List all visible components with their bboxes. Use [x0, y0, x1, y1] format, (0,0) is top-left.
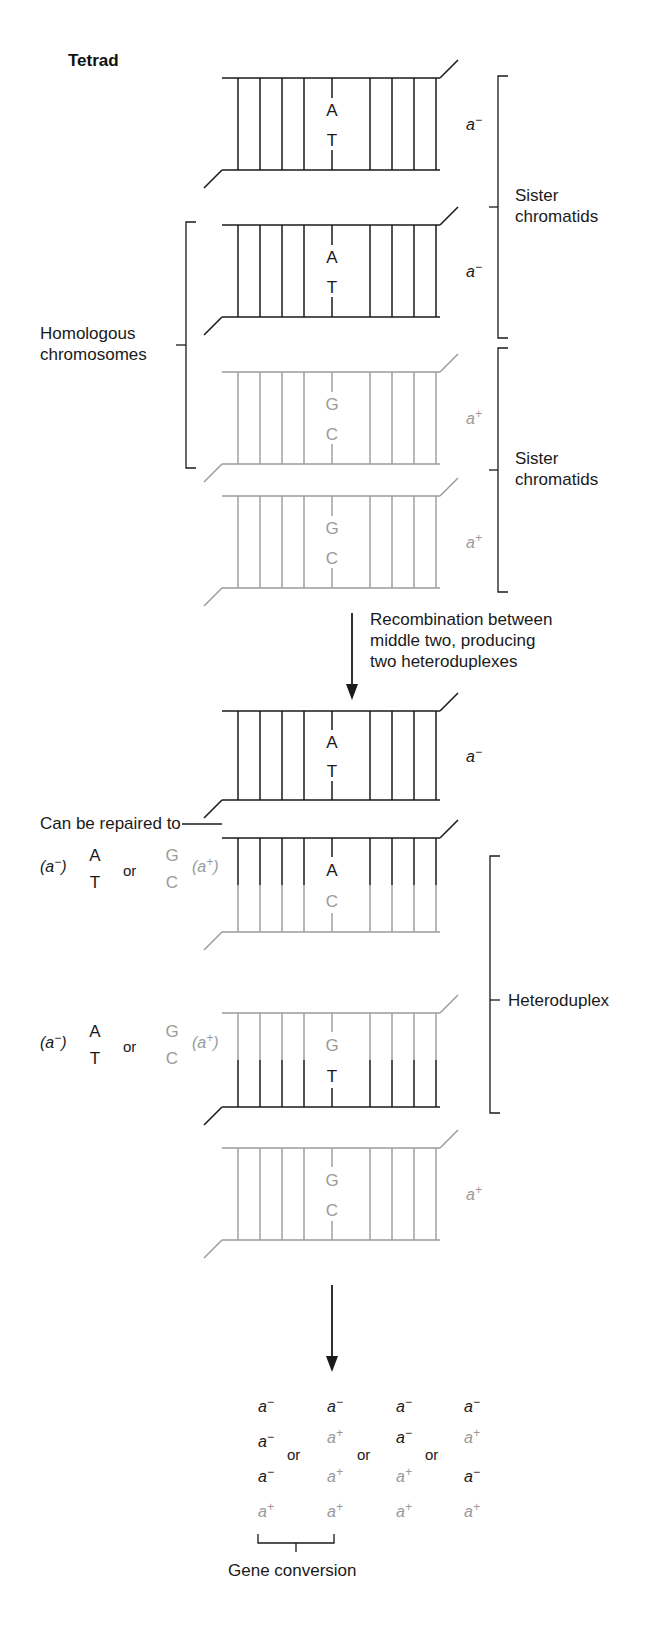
repair-option-row-1: (a−) A T or G C (a+): [40, 846, 219, 892]
gc-cell: a−: [464, 1465, 480, 1485]
repair-right-top-base: G: [165, 1022, 178, 1041]
page-title: Tetrad: [68, 51, 119, 70]
repair-left-bottom-base: T: [90, 873, 100, 892]
base-top: G: [325, 1036, 338, 1055]
label-homologous-line1: Homologous: [40, 324, 135, 343]
label-recombination-line1: Recombination between: [370, 610, 552, 629]
gc-cell: a+: [327, 1465, 343, 1485]
gene-conversion-column-1: a− a− a− a+: [258, 1395, 274, 1520]
duplex-tetrad-2: A T a−: [204, 207, 482, 335]
base-bottom: T: [327, 131, 337, 150]
base-top: A: [326, 248, 338, 267]
repair-right-allele: (a+): [192, 855, 219, 875]
gc-cell: a−: [464, 1395, 480, 1415]
duplex-tetrad-3: G C a+: [204, 354, 482, 482]
base-bottom: C: [326, 549, 338, 568]
allele-label: a+: [466, 531, 482, 551]
label-heteroduplex: Heteroduplex: [508, 991, 610, 1010]
bracket-homologous-chromosomes: [176, 222, 196, 468]
base-bottom: T: [327, 278, 337, 297]
repair-option-row-2: (a−) A T or G C (a+): [40, 1022, 219, 1068]
gene-conversion-column-3: a− a− a+ a+: [396, 1395, 412, 1520]
gc-cell: a+: [396, 1465, 412, 1485]
gc-cell: a−: [258, 1395, 274, 1415]
repair-left-bottom-base: T: [90, 1049, 100, 1068]
gc-or-3: or: [425, 1446, 438, 1463]
recombination-diagram: A T a− A T a− G: [0, 0, 669, 1627]
base-top: A: [326, 733, 338, 752]
label-gene-conversion: Gene conversion: [228, 1561, 357, 1580]
allele-label: a−: [466, 113, 482, 133]
outcome-arrow: [326, 1285, 338, 1372]
repair-left-top-base: A: [89, 846, 101, 865]
label-recombination-line3: two heteroduplexes: [370, 652, 517, 671]
base-bottom: T: [327, 1067, 337, 1086]
base-bottom: C: [326, 425, 338, 444]
gc-cell: a+: [396, 1500, 412, 1520]
label-sister-chromatids-top-line1: Sister: [515, 186, 559, 205]
base-top: A: [326, 861, 338, 880]
label-homologous-line2: chromosomes: [40, 345, 147, 364]
figure-canvas: A T a− A T a− G: [0, 0, 669, 1627]
allele-label: a−: [466, 745, 482, 765]
base-top: A: [326, 101, 338, 120]
allele-label: a−: [466, 260, 482, 280]
allele-label: a+: [466, 1183, 482, 1203]
repair-right-top-base: G: [165, 846, 178, 865]
repair-left-allele: (a−): [40, 1031, 67, 1051]
label-can-be-repaired-to: Can be repaired to: [40, 814, 181, 833]
gc-cell: a+: [258, 1500, 274, 1520]
duplex-tetrad-1: A T a−: [204, 60, 482, 188]
label-sister-chromatids-bottom-line1: Sister: [515, 449, 559, 468]
gc-or-2: or: [357, 1446, 370, 1463]
repair-right-bottom-base: C: [166, 873, 178, 892]
gc-cell: a+: [464, 1426, 480, 1446]
base-top: G: [325, 1171, 338, 1190]
label-sister-chromatids-top-line2: chromatids: [515, 207, 598, 226]
duplex-tetrad-4: G C a+: [204, 478, 482, 606]
duplex-post-1: A T a−: [204, 693, 482, 818]
gc-cell: a+: [464, 1500, 480, 1520]
repair-right-bottom-base: C: [166, 1049, 178, 1068]
gene-conversion-column-2: a− a+ a+ a+: [327, 1395, 343, 1520]
repair-or-label: or: [123, 1038, 136, 1055]
gc-cell: a+: [327, 1500, 343, 1520]
gc-cell: a+: [327, 1426, 343, 1446]
gc-cell: a−: [396, 1395, 412, 1415]
gc-cell: a−: [327, 1395, 343, 1415]
repair-left-top-base: A: [89, 1022, 101, 1041]
gc-cell: a−: [258, 1465, 274, 1485]
label-sister-chromatids-bottom-line2: chromatids: [515, 470, 598, 489]
gc-cell: a−: [258, 1430, 274, 1450]
base-top: G: [325, 395, 338, 414]
base-bottom: C: [326, 1201, 338, 1220]
duplex-post-2-heteroduplex: A C: [204, 820, 458, 950]
repair-right-allele: (a+): [192, 1031, 219, 1051]
label-recombination-line2: middle two, producing: [370, 631, 535, 650]
bracket-gene-conversion: [258, 1534, 334, 1552]
duplex-post-3-heteroduplex: G T: [204, 995, 458, 1125]
gene-conversion-column-4: a− a+ a− a+: [464, 1395, 480, 1520]
repair-or-label: or: [123, 862, 136, 879]
bracket-heteroduplex: [490, 856, 500, 1113]
base-top: G: [325, 519, 338, 538]
base-bottom: T: [327, 762, 337, 781]
base-bottom: C: [326, 892, 338, 911]
bracket-sister-chromatids-top: [489, 76, 508, 338]
bracket-sister-chromatids-bottom: [489, 348, 508, 592]
allele-label: a+: [466, 407, 482, 427]
repair-left-allele: (a−): [40, 855, 67, 875]
gc-cell: a−: [396, 1426, 412, 1446]
duplex-post-4: G C a+: [204, 1130, 482, 1258]
recombination-arrow: [346, 613, 358, 700]
gc-or-1: or: [287, 1446, 300, 1463]
